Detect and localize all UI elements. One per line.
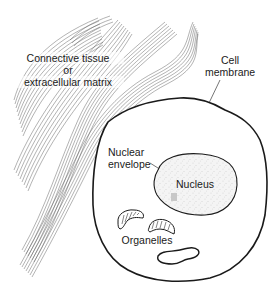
nucleolus — [171, 193, 177, 201]
label-cell-membrane-line2: membrane — [205, 66, 255, 78]
label-nucleus: Nucleus — [173, 178, 217, 190]
label-connective-tissue-line1: Connective tissue — [12, 52, 124, 64]
cell-membrane-leader — [209, 80, 220, 103]
label-nuclear-envelope-line2: envelope — [108, 158, 154, 170]
label-organelles: Organelles — [120, 234, 174, 246]
label-cell-membrane-line1: Cell — [205, 54, 255, 66]
label-nuclear-envelope-line1: Nuclear — [108, 146, 154, 158]
label-connective-tissue-line2: or — [12, 64, 124, 76]
label-connective-tissue: Connective tissue or extracellular matri… — [12, 52, 124, 88]
label-cell-membrane: Cell membrane — [205, 54, 255, 78]
label-connective-tissue-line3: extracellular matrix — [12, 76, 124, 88]
label-nuclear-envelope: Nuclear envelope — [108, 146, 154, 170]
